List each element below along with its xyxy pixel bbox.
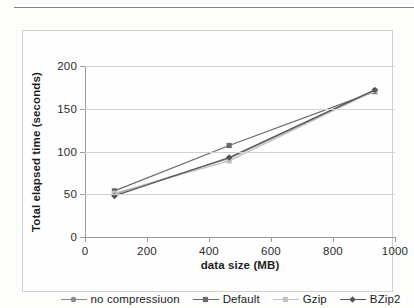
data-point-marker — [227, 143, 232, 148]
data-point-marker — [350, 296, 356, 302]
y-tick-label: 200 — [57, 60, 77, 72]
x-tick-mark — [395, 237, 396, 242]
gridline — [85, 152, 395, 153]
x-axis-title-text: data size (MB) — [201, 259, 280, 271]
y-tick-mark — [80, 194, 85, 195]
x-tick-mark — [147, 237, 148, 242]
legend-item-2[interactable]: Default — [193, 293, 260, 305]
y-tick-mark — [80, 66, 85, 67]
legend-item-1[interactable]: no compressiuon — [61, 293, 180, 305]
x-tick-label: 200 — [137, 245, 157, 257]
legend-item-4[interactable]: BZip2 — [340, 293, 401, 305]
y-axis-title: Total elapsed time (seconds) — [27, 66, 45, 237]
series-2 — [112, 89, 378, 193]
legend-marker-icon — [340, 294, 366, 304]
legend-marker-icon — [273, 294, 299, 304]
x-tick-label: 400 — [199, 245, 219, 257]
x-tick-label: 600 — [261, 245, 281, 257]
y-tick-label: 100 — [57, 146, 77, 158]
x-tick-mark — [85, 237, 86, 242]
x-axis-line — [85, 237, 395, 238]
gridline — [85, 109, 395, 110]
series-3 — [112, 88, 378, 196]
gridline — [85, 66, 395, 67]
series-line — [114, 92, 374, 191]
data-point-marker — [203, 296, 208, 301]
gridline — [85, 194, 395, 195]
y-tick-label: 0 — [70, 231, 77, 243]
data-point-marker — [71, 296, 76, 301]
x-tick-mark — [333, 237, 334, 242]
legend-item-3[interactable]: Gzip — [273, 293, 327, 305]
x-tick-mark — [209, 237, 210, 242]
legend-label: no compressiuon — [91, 293, 180, 305]
x-tick-label: 0 — [82, 245, 89, 257]
legend-label: Default — [223, 293, 260, 305]
x-tick-label: 800 — [323, 245, 343, 257]
legend-label: Gzip — [303, 293, 327, 305]
y-tick-mark — [80, 109, 85, 110]
y-tick-label: 150 — [57, 103, 77, 115]
y-tick-mark — [80, 152, 85, 153]
plot-area: 050100150200 02004006008001000 — [85, 66, 395, 237]
y-tick-label: 50 — [64, 188, 77, 200]
chart-legend: no compressiuonDefaultGzipBZip2 — [45, 293, 414, 305]
x-tick-label: 1000 — [382, 245, 408, 257]
x-axis-title: data size (MB) — [85, 259, 395, 271]
page-divider-rule — [14, 7, 414, 8]
y-axis-title-text: Total elapsed time (seconds) — [30, 72, 42, 232]
x-tick-mark — [271, 237, 272, 242]
legend-marker-icon — [61, 294, 87, 304]
legend-label: BZip2 — [370, 293, 401, 305]
series-1 — [112, 88, 378, 197]
figure-container: Total elapsed time (seconds) 05010015020… — [22, 30, 393, 292]
data-point-marker — [283, 296, 288, 301]
legend-marker-icon — [193, 294, 219, 304]
